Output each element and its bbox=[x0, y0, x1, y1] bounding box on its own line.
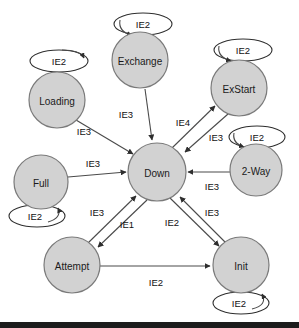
node-loading[interactable]: Loading bbox=[29, 72, 85, 128]
node-down[interactable]: Down bbox=[128, 143, 186, 201]
node-attempt[interactable]: Attempt bbox=[44, 237, 100, 293]
edge-label-down-attempt: IE1 bbox=[120, 219, 134, 230]
node-exstart-label: ExStart bbox=[223, 84, 256, 95]
state-diagram: IE2 IE2 IE2 IE2 bbox=[0, 0, 299, 328]
edge-label-twoway-down: IE3 bbox=[205, 181, 219, 192]
self-loop-twoway-label: IE2 bbox=[250, 132, 264, 143]
node-twoway-label: 2-Way bbox=[242, 166, 271, 177]
bottom-divider-bar bbox=[0, 322, 299, 328]
self-loop-loading-label: IE2 bbox=[52, 56, 66, 67]
edge-label-init-down: IE3 bbox=[205, 207, 219, 218]
edge-init-down bbox=[180, 197, 226, 243]
node-twoway[interactable]: 2-Way bbox=[230, 144, 282, 196]
edge-label-down-init: IE2 bbox=[165, 217, 179, 228]
node-exchange-label: Exchange bbox=[118, 56, 163, 67]
node-down-label: Down bbox=[144, 168, 170, 179]
edge-label-attempt-down: IE3 bbox=[90, 207, 104, 218]
node-exchange[interactable]: Exchange bbox=[112, 32, 168, 88]
state-diagram-canvas: IE2 IE2 IE2 IE2 bbox=[0, 0, 299, 328]
node-full-label: Full bbox=[33, 178, 49, 189]
self-loop-init: IE2 bbox=[213, 292, 269, 314]
node-init-label: Init bbox=[234, 261, 248, 272]
edge-label-exchange-down: IE3 bbox=[119, 109, 133, 120]
edge-label-full-down: IE3 bbox=[86, 158, 100, 169]
self-loop-full-label: IE2 bbox=[28, 211, 42, 222]
edge-exchange-down bbox=[145, 89, 152, 140]
node-full[interactable]: Full bbox=[14, 155, 68, 209]
node-init[interactable]: Init bbox=[213, 237, 269, 293]
edge-full-down bbox=[68, 172, 126, 177]
self-loop-init-label: IE2 bbox=[232, 298, 246, 309]
edge-label-down-exstart: IE4 bbox=[176, 117, 190, 128]
edge-label-loading-down: IE3 bbox=[77, 126, 91, 137]
self-loop-loading: IE2 bbox=[30, 50, 88, 72]
edge-label-exstart-down: IE3 bbox=[209, 132, 223, 143]
edge-label-attempt-init: IE2 bbox=[149, 277, 163, 288]
self-loop-exstart-label: IE2 bbox=[236, 45, 250, 56]
self-loop-exchange-label: IE2 bbox=[136, 19, 150, 30]
node-loading-label: Loading bbox=[39, 96, 75, 107]
node-attempt-label: Attempt bbox=[55, 261, 90, 272]
node-exstart[interactable]: ExStart bbox=[211, 60, 267, 116]
self-loop-exstart: IE2 bbox=[214, 39, 272, 61]
